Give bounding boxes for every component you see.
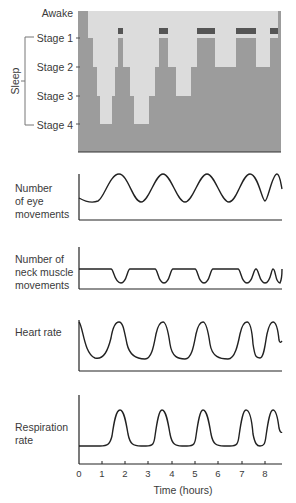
heart-rate-label: Heart rate — [15, 326, 62, 338]
neck-movements-line — [79, 269, 282, 283]
x-tick-2: 2 — [122, 468, 127, 479]
sleep-bracket — [21, 37, 34, 125]
stage-label-1: Stage 1 — [37, 32, 73, 44]
respiration-rate-panel: Respiration rate — [15, 395, 282, 464]
sleep-group-label: Sleep — [9, 67, 21, 94]
stage-label-4: Stage 4 — [37, 119, 73, 131]
x-tick-6: 6 — [215, 468, 220, 479]
sleep-figure: Awake Stage 1 Stage 2 Stage 3 Stage 4 Sl… — [0, 0, 296, 503]
neck-label-2: neck muscle — [15, 266, 74, 278]
eye-label-2: of eye — [15, 195, 44, 207]
respiration-label-2: rate — [15, 434, 33, 446]
x-tick-8: 8 — [262, 468, 267, 479]
x-tick-4: 4 — [169, 468, 174, 479]
stage-label-3: Stage 3 — [37, 90, 73, 102]
neck-movements-panel: Number of neck muscle movements — [15, 247, 282, 291]
eye-label-3: movements — [15, 208, 69, 220]
x-axis: 0 1 2 3 4 5 6 7 8 Time (hours) — [76, 461, 267, 496]
heart-rate-panel: Heart rate — [15, 320, 282, 371]
x-tick-5: 5 — [192, 468, 197, 479]
respiration-label-1: Respiration — [15, 421, 68, 433]
neck-label-3: movements — [15, 279, 69, 291]
heart-rate-line — [79, 322, 282, 359]
eye-label-1: Number — [15, 182, 53, 194]
respiration-rate-line — [79, 410, 282, 446]
x-tick-0: 0 — [76, 468, 81, 479]
x-tick-1: 1 — [99, 468, 104, 479]
x-tick-7: 7 — [239, 468, 244, 479]
stage-label-2: Stage 2 — [37, 61, 73, 73]
eye-movements-line — [79, 174, 282, 202]
x-tick-3: 3 — [145, 468, 150, 479]
neck-label-1: Number of — [15, 253, 64, 265]
stage-label-awake: Awake — [42, 7, 73, 19]
x-axis-label: Time (hours) — [153, 484, 212, 496]
hypnogram-panel: Awake Stage 1 Stage 2 Stage 3 Stage 4 Sl… — [9, 7, 281, 152]
eye-movements-panel: Number of eye movements — [15, 174, 282, 220]
